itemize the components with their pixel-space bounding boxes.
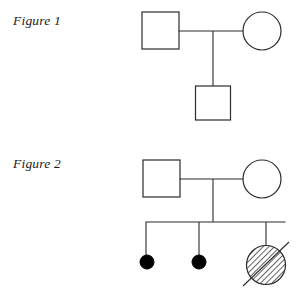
pedigree-diagram-canvas [0,0,304,290]
fig2-individual-child1-female-affected [140,255,154,269]
fig1-individual-child-male-unaffected [196,86,231,120]
pedigree-page: Figure 1 Figure 2 [0,0,304,290]
fig2-individual-child3-female-hatched-deceased [243,242,289,286]
fig1-individual-mother-female-unaffected [243,12,281,50]
fig2-individual-child2-female-affected [192,255,206,269]
fig1-individual-father-male-unaffected [142,12,179,49]
figure-2-group [140,160,289,286]
fig2-individual-mother-female-unaffected [243,160,281,198]
fig2-individual-father-male-unaffected [143,160,180,197]
figure-1-group [142,12,281,120]
